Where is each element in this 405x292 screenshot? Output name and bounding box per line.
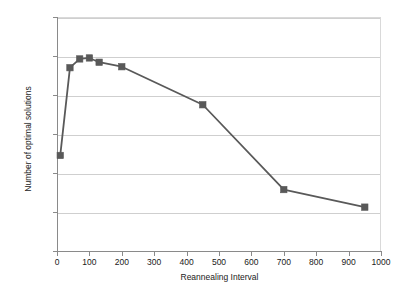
chart-container: 020040060080010001200 010020030040050060… [0,0,405,292]
x-tick-mark [154,252,155,256]
x-tick-mark [251,252,252,256]
x-tick-mark [122,252,123,256]
plot-area [57,17,381,251]
x-tick-mark [89,252,90,256]
x-tick-mark [316,252,317,256]
gridline [57,18,380,19]
y-tick-mark [53,212,57,213]
y-tick-mark [53,134,57,135]
x-tick-mark [349,252,350,256]
gridline [57,174,380,175]
y-tick-mark [53,17,57,18]
y-axis-line [57,17,58,252]
y-tick-mark [53,173,57,174]
x-tick-mark [57,252,58,256]
x-tick-mark [219,252,220,256]
x-axis-title: Reannealing Interval [57,272,382,282]
gridline [57,57,380,58]
x-tick-label: 1000 [361,258,401,267]
gridline [57,213,380,214]
x-tick-mark [187,252,188,256]
x-tick-mark [284,252,285,256]
y-tick-mark [53,56,57,57]
x-tick-mark [381,252,382,256]
gridline [57,135,380,136]
y-tick-mark [53,95,57,96]
y-axis-title: Number of optimal solutions [23,39,33,239]
gridline [57,96,380,97]
